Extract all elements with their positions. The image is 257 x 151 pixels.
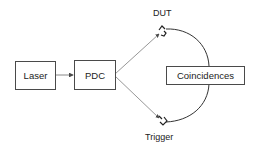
pdc-label: PDC [85, 70, 105, 81]
laser-label: Laser [24, 70, 48, 81]
dut-label: DUT [153, 8, 172, 18]
pdc-box: PDC [74, 60, 116, 90]
coincidences-box: Coincidences [166, 66, 245, 85]
laser-box: Laser [15, 61, 56, 90]
detector-dut-icon [159, 26, 166, 36]
edge-trigger-coincidences [166, 84, 209, 122]
detector-trigger-icon [159, 116, 167, 125]
trigger-label: Trigger [145, 132, 173, 142]
edge-pdc-trigger [115, 76, 159, 118]
edge-pdc-dut [115, 34, 159, 74]
edge-dut-coincidences [166, 29, 209, 66]
coincidences-label: Coincidences [177, 70, 234, 81]
